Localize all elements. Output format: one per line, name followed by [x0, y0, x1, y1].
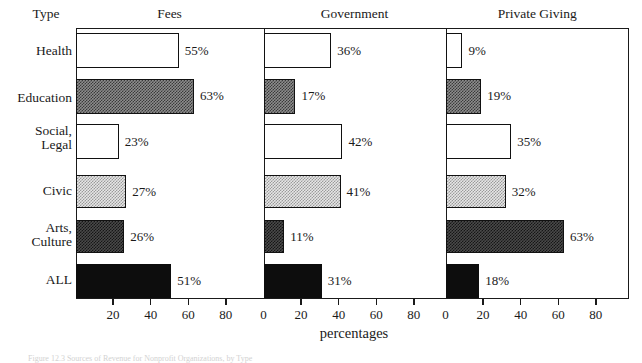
axis-tick: [413, 299, 414, 305]
panel-title-2: Government: [264, 6, 446, 21]
axis-tick-label: 20: [98, 308, 128, 321]
bar-value-label-3-all: 18%: [485, 274, 509, 287]
axis-tick: [225, 299, 226, 305]
axis-tick-label: 80: [399, 308, 429, 321]
bar-3-all: [446, 264, 480, 298]
row-axis-header: Type: [16, 6, 76, 21]
bar-value-label-2-health: 36%: [337, 44, 361, 57]
bar-3-health: [446, 33, 463, 68]
row-label-civic: Civic: [43, 184, 72, 198]
bar-1-social-legal: [76, 124, 119, 159]
bar-1-health: [76, 33, 179, 68]
bar-value-label-3-arts-culture: 63%: [570, 230, 594, 243]
row-label-line: Legal: [35, 138, 72, 152]
bar-value-label-3-civic: 32%: [512, 185, 536, 198]
bar-2-all: [264, 264, 322, 298]
bar-2-civic: [264, 175, 341, 208]
panel-title-1: Fees: [76, 6, 264, 21]
axis-tick-label: 20: [468, 308, 498, 321]
bar-value-label-1-education: 63%: [200, 89, 224, 102]
bar-1-arts-culture: [76, 220, 125, 253]
axis-tick-label: 60: [173, 308, 203, 321]
bar-1-all: [76, 264, 172, 298]
bar-value-label-2-arts-culture: 11%: [290, 230, 313, 243]
figure-caption: Figure 12.3 Sources of Revenue for Nonpr…: [28, 355, 628, 363]
bar-3-education: [446, 79, 482, 114]
axis-tick: [112, 299, 113, 305]
bar-2-arts-culture: [264, 220, 285, 253]
axis-tick-label: 60: [361, 308, 391, 321]
bar-value-label-1-social-legal: 23%: [125, 135, 149, 148]
panel-title-3: Private Giving: [446, 6, 630, 21]
row-label-line: Civic: [43, 184, 72, 198]
bar-value-label-2-social-legal: 42%: [348, 135, 372, 148]
bar-value-label-2-all: 31%: [328, 274, 352, 287]
axis-tick-label: 20: [286, 308, 316, 321]
axis-tick: [595, 299, 596, 305]
axis-tick-label: 40: [136, 308, 166, 321]
bar-2-social-legal: [264, 124, 343, 159]
axis-tick: [188, 299, 189, 305]
axis-tick-label: 80: [211, 308, 241, 321]
bar-1-civic: [76, 175, 127, 208]
row-label-education: Education: [17, 91, 72, 105]
bar-value-label-2-education: 17%: [301, 89, 325, 102]
axis-tick: [520, 299, 521, 305]
axis-tick-label: 40: [324, 308, 354, 321]
row-label-all: ALL: [46, 273, 72, 287]
axis-tick: [376, 299, 377, 305]
bar-1-education: [76, 79, 194, 114]
panel-2-frame: [264, 28, 446, 299]
bar-2-health: [264, 33, 332, 68]
panel-1-frame: [76, 28, 264, 299]
axis-tick: [150, 299, 151, 305]
bar-value-label-3-education: 19%: [487, 89, 511, 102]
row-label-line: Social,: [35, 124, 72, 138]
axis-tick: [300, 299, 301, 305]
axis-tick-label: 0: [431, 308, 461, 321]
axis-tick: [482, 299, 483, 305]
row-label-health: Health: [36, 44, 72, 58]
row-label-line: Education: [17, 91, 72, 105]
axis-tick-label: 0: [249, 308, 279, 321]
bar-value-label-2-civic: 41%: [347, 185, 371, 198]
bar-3-social-legal: [446, 124, 512, 159]
bar-value-label-1-arts-culture: 26%: [130, 230, 154, 243]
bar-3-civic: [446, 175, 506, 208]
bar-value-label-3-social-legal: 35%: [517, 135, 541, 148]
bar-2-education: [264, 79, 296, 114]
bar-3-arts-culture: [446, 220, 564, 253]
x-axis-title: percentages: [254, 325, 454, 342]
bar-value-label-1-civic: 27%: [132, 185, 156, 198]
panel-3-frame: [446, 28, 630, 299]
row-label-line: Culture: [32, 235, 73, 249]
row-label-line: Arts,: [32, 221, 73, 235]
axis-tick: [558, 299, 559, 305]
axis-tick-label: 40: [506, 308, 536, 321]
bar-value-label-1-health: 55%: [185, 44, 209, 57]
row-label-line: ALL: [46, 273, 72, 287]
axis-tick-label: 80: [581, 308, 611, 321]
bar-value-label-1-all: 51%: [177, 274, 201, 287]
axis-tick: [338, 299, 339, 305]
bar-value-label-3-health: 9%: [468, 44, 485, 57]
row-label-arts-culture: Arts,Culture: [32, 221, 73, 249]
axis-tick-label: 60: [543, 308, 573, 321]
row-label-line: Health: [36, 44, 72, 58]
row-label-social-legal: Social,Legal: [35, 124, 72, 152]
